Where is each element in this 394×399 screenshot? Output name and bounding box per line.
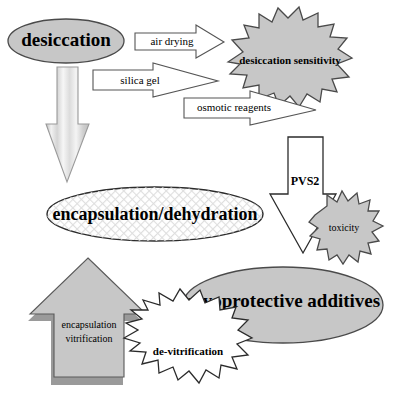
node-de-vitrification-label: de-vitrification	[153, 345, 223, 357]
arrow-osmotic-reagents-label: osmotic reagents	[197, 101, 271, 113]
node-desiccation-sensitivity-label: desiccation sensitivity	[239, 54, 341, 66]
desiccation-to-encapsulation-arrow-shape	[46, 67, 89, 182]
arrow-air-drying-label: air drying	[150, 35, 194, 47]
node-desiccation-sensitivity[interactable]: desiccation sensitivity	[228, 7, 352, 107]
arrow-air-drying[interactable]: air drying	[135, 25, 224, 58]
node-encapsulation-dehydration[interactable]: encapsulation/dehydration	[47, 187, 263, 241]
node-toxicity-label: toxicity	[329, 222, 360, 233]
arrow-silica-gel-label: silica gel	[120, 74, 159, 86]
node-desiccation[interactable]: desiccation	[8, 19, 124, 63]
arrow-silica-gel[interactable]: silica gel	[93, 63, 218, 97]
arrow-encapsulation-vitrification-label-line1: encapsulation	[62, 319, 117, 330]
arrow-pvs2-label: PVS2	[291, 174, 320, 188]
arrow-encapsulation-vitrification-label-line2: vitrification	[65, 333, 112, 344]
arrow-encapsulation-vitrification[interactable]: encapsulation vitrification	[28, 258, 146, 385]
arrow-desiccation-to-encapsulation[interactable]	[46, 67, 89, 182]
node-encapsulation-dehydration-label: encapsulation/dehydration	[52, 204, 257, 224]
diagram-canvas: desiccation desiccation sensitivity air …	[0, 0, 394, 399]
node-desiccation-label: desiccation	[21, 29, 111, 50]
